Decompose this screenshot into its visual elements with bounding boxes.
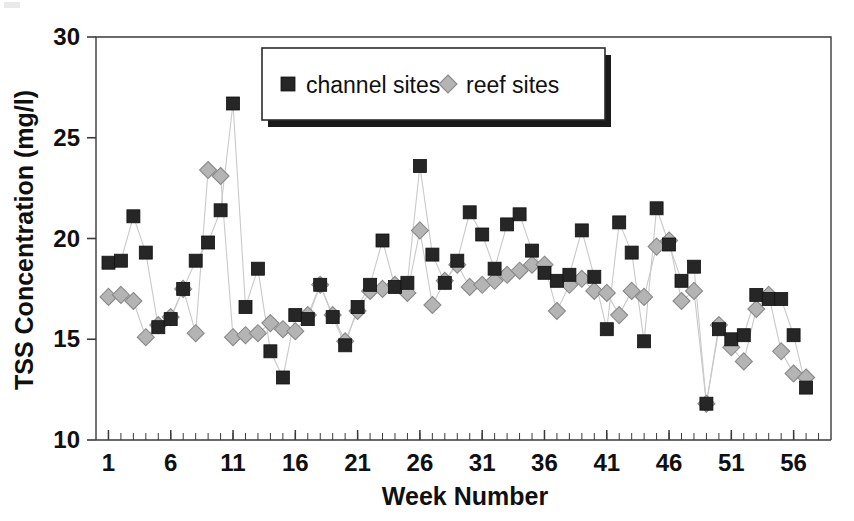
data-point-square xyxy=(389,280,402,293)
data-point-square xyxy=(712,323,725,336)
data-point-square xyxy=(787,329,800,342)
data-point-square xyxy=(476,228,489,241)
data-point-square xyxy=(563,268,576,281)
data-point-square xyxy=(177,282,190,295)
data-point-square xyxy=(488,262,501,275)
x-tick-label: 11 xyxy=(220,449,245,476)
data-point-square xyxy=(688,260,701,273)
x-tick-label: 16 xyxy=(282,449,309,476)
y-tick-label: 25 xyxy=(53,124,80,151)
data-point-square xyxy=(376,234,389,247)
data-point-square xyxy=(737,329,750,342)
y-tick-label: 20 xyxy=(53,225,80,252)
data-point-square xyxy=(264,345,277,358)
data-point-square xyxy=(351,301,364,314)
data-point-square xyxy=(526,244,539,257)
y-axis-title: TSS Concentration (mg/l) xyxy=(10,90,38,390)
x-tick-label: 46 xyxy=(656,449,683,476)
data-point-square xyxy=(588,270,601,283)
data-point-square xyxy=(438,276,451,289)
data-point-square xyxy=(725,333,738,346)
x-tick-label: 31 xyxy=(469,449,496,476)
data-point-square xyxy=(625,246,638,259)
data-point-square xyxy=(114,254,127,267)
data-point-square xyxy=(189,254,202,267)
data-point-square xyxy=(513,208,526,221)
x-tick-label: 6 xyxy=(164,449,177,476)
data-point-square xyxy=(364,278,377,291)
data-point-square xyxy=(550,274,563,287)
data-point-square xyxy=(127,210,140,223)
data-point-square xyxy=(401,276,414,289)
data-point-square xyxy=(276,371,289,384)
data-point-square xyxy=(139,246,152,259)
data-point-square xyxy=(575,224,588,237)
data-point-square xyxy=(251,262,264,275)
data-point-square xyxy=(675,274,688,287)
x-tick-label: 56 xyxy=(780,449,807,476)
x-tick-label: 36 xyxy=(531,449,558,476)
legend-label: reef sites xyxy=(466,72,559,98)
x-tick-label: 41 xyxy=(593,449,620,476)
x-tick-label: 21 xyxy=(344,449,371,476)
data-point-square xyxy=(102,256,115,269)
data-point-square xyxy=(775,293,788,306)
data-point-square xyxy=(239,301,252,314)
x-tick-label: 51 xyxy=(718,449,745,476)
data-point-square xyxy=(301,313,314,326)
data-point-square xyxy=(501,218,514,231)
data-point-square xyxy=(214,204,227,217)
data-point-square xyxy=(289,309,302,322)
data-point-square xyxy=(650,202,663,215)
data-point-square xyxy=(426,248,439,261)
y-tick-label: 30 xyxy=(53,23,80,50)
data-point-square xyxy=(800,381,813,394)
data-point-square xyxy=(700,397,713,410)
data-point-square xyxy=(152,321,165,334)
data-point-square xyxy=(600,323,613,336)
data-point-square xyxy=(227,97,240,110)
data-point-square xyxy=(663,238,676,251)
data-point-square xyxy=(314,278,327,291)
x-tick-label: 26 xyxy=(407,449,434,476)
data-point-square xyxy=(164,313,177,326)
data-point-square xyxy=(326,311,339,324)
legend-marker-square xyxy=(281,77,295,91)
chart-figure: 1015202530 1611162126313641465156 TSS Co… xyxy=(0,0,854,521)
legend-label: channel sites xyxy=(306,72,440,98)
legend: channel sitesreef sites xyxy=(262,48,611,127)
y-tick-label: 10 xyxy=(53,426,80,453)
data-point-square xyxy=(339,339,352,352)
data-point-square xyxy=(638,335,651,348)
data-point-square xyxy=(451,254,464,267)
x-tick-label: 1 xyxy=(102,449,115,476)
scan-artifact xyxy=(4,2,20,8)
tss-concentration-scatter-chart: 1015202530 1611162126313641465156 TSS Co… xyxy=(0,0,854,521)
data-point-square xyxy=(750,288,763,301)
data-point-square xyxy=(463,206,476,219)
data-point-square xyxy=(202,236,215,249)
data-point-square xyxy=(413,160,426,173)
data-point-square xyxy=(538,266,551,279)
data-point-square xyxy=(762,293,775,306)
y-tick-label: 15 xyxy=(53,325,80,352)
data-point-square xyxy=(613,216,626,229)
x-axis-title: Week Number xyxy=(382,482,549,510)
